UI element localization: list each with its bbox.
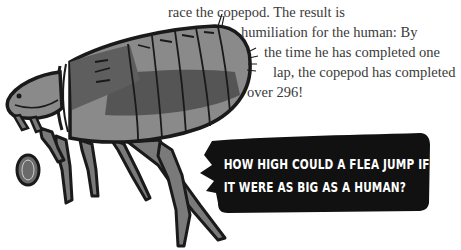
body-text-line: over 296! (247, 85, 303, 100)
speech-bubble-line: HOW HIGH COULD A FLEA JUMP IF (224, 156, 406, 172)
body-text-line: race the copepod. The result is (168, 5, 345, 20)
body-text-line: the time he has completed one (264, 45, 440, 60)
page: race the copepod. The result is humiliat… (0, 0, 461, 250)
speech-bubble-line: IT WERE AS BIG AS A HUMAN? (224, 179, 406, 195)
speech-bubble (198, 133, 431, 215)
body-text-line: humiliation for the human: By (241, 25, 417, 40)
body-text-line: lap, the copepod has completed (273, 65, 455, 80)
flea-head (7, 72, 62, 118)
flea-eye (17, 94, 22, 99)
